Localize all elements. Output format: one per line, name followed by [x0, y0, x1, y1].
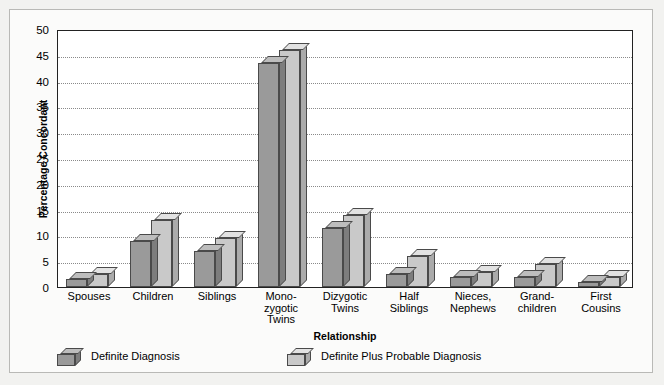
legend-label: Definite Diagnosis [91, 350, 180, 362]
y-axis-tick-20: 20 [36, 179, 49, 191]
x-axis-tick-label: Grand-children [505, 291, 569, 314]
chart-legend: Definite DiagnosisDefinite Plus Probable… [57, 346, 633, 372]
x-axis-tick-label: FirstCousins [569, 291, 633, 314]
bar-side-face [236, 231, 243, 287]
x-axis-tick-labels: SpousesChildrenSiblingsMono-zygoticTwins… [57, 291, 633, 335]
bar-group [130, 29, 179, 287]
y-axis-tick-45: 45 [36, 50, 49, 62]
bar-spouses-series2 [87, 29, 108, 287]
cube-face-panel [57, 354, 75, 366]
y-axis-tick-5: 5 [43, 256, 49, 268]
bar-front-face [578, 282, 599, 287]
x-axis-tick-label: Spouses [57, 291, 121, 303]
bar-group [322, 29, 371, 287]
bar-front-face [130, 241, 151, 287]
y-axis-tick-50: 50 [36, 24, 49, 36]
y-axis-tick-35: 35 [36, 101, 49, 113]
bar-niecesnephews-series1 [450, 29, 471, 287]
bar-front-face [194, 251, 215, 287]
bar-side-face [172, 213, 179, 287]
x-axis-tick-label: Siblings [185, 291, 249, 303]
bar-grandchildren-series1 [514, 29, 535, 287]
legend-label: Definite Plus Probable Diagnosis [321, 350, 481, 362]
chart-figure: Percentage Concordant 504540353025201510… [9, 9, 653, 373]
bar-side-face [364, 208, 371, 287]
bar-firstcousins-series1 [578, 29, 599, 287]
bar-series-container [58, 31, 632, 287]
y-axis-tick-25: 25 [36, 153, 49, 165]
plot-area [57, 30, 633, 288]
bar-front-face [450, 277, 471, 287]
bar-side-face [300, 43, 307, 287]
bar-front-face [66, 279, 87, 287]
bar-firstcousins-series2 [599, 29, 620, 287]
bar-group [514, 29, 563, 287]
bar-siblings-series1 [194, 29, 215, 287]
bar-children-series1 [130, 29, 151, 287]
bar-group [578, 29, 627, 287]
x-axis-tick-label: Children [121, 291, 185, 303]
x-axis-tick-label: DizygoticTwins [313, 291, 377, 314]
bar-side-face [151, 234, 158, 287]
bar-group [258, 29, 307, 287]
bar-front-face [322, 228, 343, 287]
y-axis-ticks: 50454035302520151050 [10, 30, 53, 288]
bar-monozygotictwins-series1 [258, 29, 279, 287]
bar-front-face [386, 274, 407, 287]
bar-dizygotictwins-series1 [322, 29, 343, 287]
y-axis-tick-15: 15 [36, 205, 49, 217]
y-axis-tick-0: 0 [43, 282, 49, 294]
bar-front-face [514, 277, 535, 287]
bar-side-face [343, 221, 350, 287]
bar-group [66, 29, 115, 287]
bar-halfsiblings-series2 [407, 29, 428, 287]
bar-group [386, 29, 435, 287]
y-axis-tick-10: 10 [36, 230, 49, 242]
bar-group [450, 29, 499, 287]
x-axis-tick-label: HalfSiblings [377, 291, 441, 314]
bar-group [194, 29, 243, 287]
cube-face-panel [287, 354, 305, 366]
legend-item[interactable]: Definite Plus Probable Diagnosis [287, 346, 481, 366]
bar-halfsiblings-series1 [386, 29, 407, 287]
bar-spouses-series1 [66, 29, 87, 287]
y-axis-tick-30: 30 [36, 127, 49, 139]
cube-light-icon [287, 346, 313, 366]
y-axis-tick-40: 40 [36, 76, 49, 88]
x-axis-label: Relationship [57, 330, 633, 342]
x-axis-tick-label: Nieces,Nephews [441, 291, 505, 314]
x-axis-tick-label: Mono-zygoticTwins [249, 291, 313, 326]
bar-niecesnephews-series2 [471, 29, 492, 287]
legend-item[interactable]: Definite Diagnosis [57, 346, 180, 366]
bar-grandchildren-series2 [535, 29, 556, 287]
bar-side-face [279, 56, 286, 287]
bar-front-face [258, 63, 279, 287]
cube-dark-icon [57, 346, 83, 366]
